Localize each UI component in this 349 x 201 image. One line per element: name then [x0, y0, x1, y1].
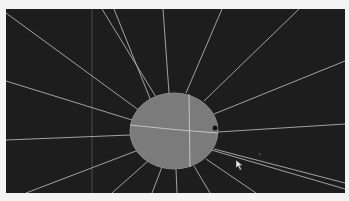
sphere-body[interactable] — [130, 93, 218, 169]
ray-line — [114, 9, 151, 101]
ray-line — [6, 135, 130, 140]
ray-line — [152, 167, 162, 193]
scene-canvas[interactable] — [6, 9, 345, 193]
ray-line — [208, 149, 345, 189]
ray-line — [194, 166, 210, 193]
ray-line — [186, 9, 222, 93]
point-marker — [259, 153, 261, 155]
ray-line — [214, 61, 345, 114]
ray-line — [218, 124, 345, 132]
mouse-pointer-icon — [236, 160, 243, 170]
ray-line — [6, 13, 140, 111]
ray-line — [206, 159, 256, 193]
ray-line — [102, 9, 156, 97]
ray-line — [6, 81, 132, 120]
ray-line — [176, 169, 177, 193]
vertex-marker — [213, 126, 218, 131]
3d-viewport[interactable] — [6, 9, 345, 193]
ray-line — [163, 9, 169, 93]
ray-line — [204, 9, 299, 101]
ray-line — [112, 161, 148, 193]
